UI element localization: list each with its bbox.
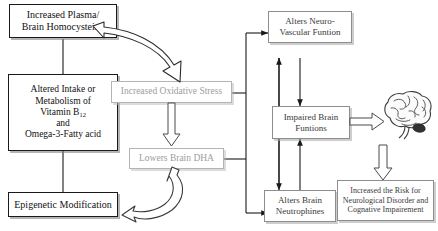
block-arrow-brain-to-risk bbox=[374, 145, 392, 180]
block-arrow-impaired-to-brain bbox=[350, 113, 384, 130]
diagram-canvas: Increased Plasma/ Brain Homocysteine Alt… bbox=[0, 0, 438, 231]
curved-block-arrow-dha-to-epigenetic bbox=[122, 167, 183, 222]
block-arrow-oxidative-to-dha bbox=[163, 103, 180, 146]
curved-block-arrow-homocysteine-to-oxidative bbox=[93, 22, 181, 82]
block-arrows bbox=[0, 0, 438, 231]
